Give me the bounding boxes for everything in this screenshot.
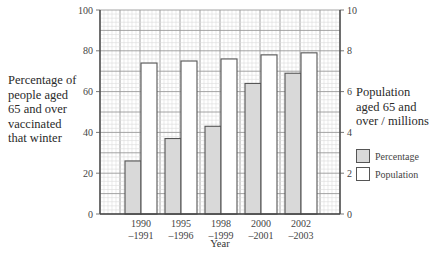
svg-text:20: 20 bbox=[83, 168, 93, 179]
svg-text:2000: 2000 bbox=[251, 218, 271, 229]
bar-population bbox=[141, 63, 157, 214]
svg-text:60: 60 bbox=[83, 86, 93, 97]
svg-text:10: 10 bbox=[347, 5, 357, 16]
legend: Percentage Population bbox=[356, 147, 419, 183]
legend-swatch-population bbox=[356, 167, 370, 181]
bar-chart: 0204060801000246810 1990–19911995–199619… bbox=[0, 0, 438, 255]
legend-label: Percentage bbox=[375, 151, 419, 162]
svg-text:80: 80 bbox=[83, 45, 93, 56]
svg-text:100: 100 bbox=[78, 5, 93, 16]
legend-label: Population bbox=[375, 169, 418, 180]
bar-population bbox=[221, 59, 237, 214]
x-axis-title: Year bbox=[100, 238, 340, 249]
legend-item-percentage: Percentage bbox=[356, 147, 419, 165]
bar-percentage bbox=[125, 161, 141, 214]
bar-percentage bbox=[205, 126, 221, 214]
bar-percentage bbox=[245, 83, 261, 214]
svg-text:1995: 1995 bbox=[171, 218, 191, 229]
bar-percentage bbox=[285, 73, 301, 214]
bar-population bbox=[261, 55, 277, 214]
bars bbox=[125, 53, 317, 214]
svg-text:0: 0 bbox=[88, 209, 93, 220]
svg-text:8: 8 bbox=[347, 45, 352, 56]
svg-text:2002: 2002 bbox=[291, 218, 311, 229]
svg-text:4: 4 bbox=[347, 127, 352, 138]
bar-population bbox=[181, 61, 197, 214]
svg-text:40: 40 bbox=[83, 127, 93, 138]
bar-population bbox=[301, 53, 317, 214]
svg-text:0: 0 bbox=[347, 209, 352, 220]
svg-text:1998: 1998 bbox=[211, 218, 231, 229]
svg-text:2: 2 bbox=[347, 168, 352, 179]
legend-item-population: Population bbox=[356, 165, 419, 183]
svg-text:1990: 1990 bbox=[131, 218, 151, 229]
legend-swatch-percentage bbox=[356, 149, 370, 163]
svg-text:6: 6 bbox=[347, 86, 352, 97]
bar-percentage bbox=[165, 139, 181, 214]
